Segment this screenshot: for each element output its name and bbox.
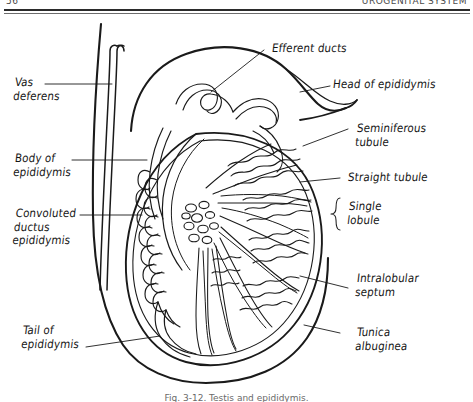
label-seminiferous-tubule: Seminiferous tubule: [354, 122, 427, 149]
figure-caption-text: Fig. 3-12. Testis and epididymis.: [0, 394, 473, 402]
label-convoluted-ductus-epididymis: Convoluted ductus epididymis: [12, 207, 77, 248]
label-tunica-albuginea: Tunica albuginea: [354, 326, 410, 353]
efferent-ducts-coils: [176, 84, 282, 172]
label-intralobular-septum: Intralobular septum: [354, 272, 419, 299]
page-canvas: 56 UROGENITAL SYSTEM: [0, 0, 473, 402]
seminiferous-tubules: [211, 149, 312, 310]
leader-efferent-ducts: [211, 50, 264, 92]
label-head-of-epididymis: Head of epididymis: [332, 78, 436, 92]
label-vas-deferens: Vas deferens: [12, 76, 62, 103]
straight-tubules: [196, 144, 307, 354]
single-lobule-brace: [331, 198, 340, 230]
label-single-lobule: Single lobule: [346, 200, 382, 227]
label-tail-of-epididymis: Tail of epididymis: [20, 324, 81, 351]
vas-deferens-shape: [100, 45, 124, 290]
label-efferent-ducts: Efferent ducts: [271, 42, 347, 56]
label-straight-tubule: Straight tubule: [347, 171, 428, 185]
leader-tunica-albuginea: [304, 325, 340, 333]
testis-outer-capsule: [126, 133, 322, 365]
tunica-albuginea-inner: [133, 140, 314, 356]
convoluted-ductus-epididymis-shape: [136, 128, 180, 327]
rete-testis-network: [182, 201, 219, 243]
leader-seminiferous-tubule: [303, 129, 348, 146]
figure-caption: Fig. 3-12. Testis and epididymis.: [0, 394, 473, 402]
label-body-of-epididymis: Body of epididymis: [12, 152, 73, 179]
